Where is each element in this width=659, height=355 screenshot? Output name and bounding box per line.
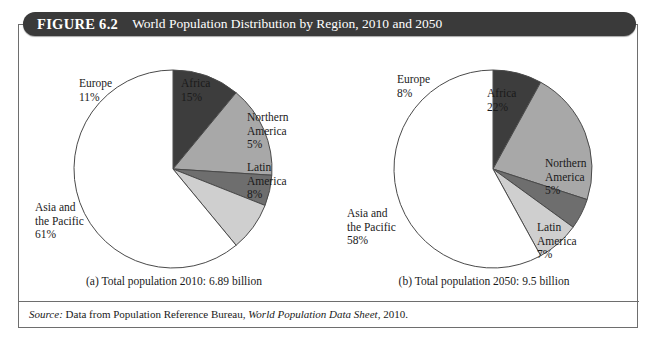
- slice-label-asia-pacific-name2-2010: the Pacific: [35, 215, 84, 229]
- slice-label-asia-pacific-name2-2050: the Pacific: [347, 221, 396, 235]
- figure-frame: Europe 11% Africa 15% Northern America 5…: [18, 24, 638, 328]
- figure-title-bar: FIGURE 6.2 World Population Distribution…: [23, 12, 636, 36]
- slice-label-latin-america-pct-2010: 8%: [247, 188, 287, 202]
- source-note: Source: Data from Population Reference B…: [29, 308, 629, 320]
- slice-label-europe-name-2050: Europe: [397, 73, 430, 85]
- slice-label-asia-pacific-2010: Asia and the Pacific 61%: [35, 201, 84, 242]
- slice-label-africa-pct-2010: 15%: [181, 91, 210, 105]
- panel-caption-2050: (b) Total population 2050: 9.5 billion: [329, 275, 639, 287]
- figure-title: World Population Distribution by Region,…: [132, 16, 442, 32]
- pie-holder-2010: Europe 11% Africa 15% Northern America 5…: [19, 49, 329, 277]
- slice-label-northern-america-name2-2050: America: [545, 171, 587, 185]
- slice-label-northern-america-name-2010: Northern: [247, 111, 289, 123]
- slice-label-latin-america-name-2050: Latin: [537, 221, 561, 233]
- slice-label-europe-2050: Europe 8%: [397, 73, 430, 100]
- slice-label-northern-america-2010: Northern America 5%: [247, 111, 289, 152]
- slice-label-asia-pacific-pct-2010: 61%: [35, 228, 84, 242]
- slice-label-latin-america-2050: Latin America 7%: [537, 221, 577, 262]
- slice-label-latin-america-2010: Latin America 8%: [247, 161, 287, 202]
- slice-label-latin-america-name-2010: Latin: [247, 161, 271, 173]
- slice-label-africa-name-2010: Africa: [181, 77, 210, 89]
- slice-label-northern-america-name-2050: Northern: [545, 157, 587, 169]
- source-publication-title: World Population Data Sheet: [248, 308, 377, 320]
- source-text-after: , 2010.: [378, 308, 408, 320]
- figure-container: Europe 11% Africa 15% Northern America 5…: [18, 12, 642, 342]
- slice-label-northern-america-pct-2050: 5%: [545, 184, 587, 198]
- slice-label-latin-america-pct-2050: 7%: [537, 248, 577, 262]
- slice-label-africa-pct-2050: 22%: [487, 101, 516, 115]
- pie-holder-2050: Europe 8% Africa 22% Northern America 5%…: [329, 49, 639, 277]
- slice-label-asia-pacific-name-2010: Asia and: [35, 201, 76, 213]
- slice-label-asia-pacific-pct-2050: 58%: [347, 234, 396, 248]
- slice-label-europe-2010: Europe 11%: [79, 77, 112, 104]
- charts-row: Europe 11% Africa 15% Northern America 5…: [19, 49, 639, 301]
- slice-label-asia-pacific-2050: Asia and the Pacific 58%: [347, 207, 396, 248]
- slice-label-europe-pct-2010: 11%: [79, 91, 112, 105]
- slice-label-africa-2010: Africa 15%: [181, 77, 210, 104]
- source-prefix: Source:: [29, 308, 63, 320]
- slice-label-europe-name-2010: Europe: [79, 77, 112, 89]
- slice-label-latin-america-name2-2050: America: [537, 235, 577, 249]
- panel-caption-2010: (a) Total population 2010: 6.89 billion: [19, 275, 329, 287]
- source-text-before: Data from Population Reference Bureau,: [66, 308, 246, 320]
- slice-label-europe-pct-2050: 8%: [397, 87, 430, 101]
- slice-label-asia-pacific-name-2050: Asia and: [347, 207, 388, 219]
- figure-number: FIGURE 6.2: [37, 16, 118, 33]
- slice-label-northern-america-2050: Northern America 5%: [545, 157, 587, 198]
- source-divider: [19, 301, 639, 302]
- slice-label-africa-name-2050: Africa: [487, 87, 516, 99]
- slice-label-northern-america-name2-2010: America: [247, 125, 289, 139]
- chart-panel-2050: Europe 8% Africa 22% Northern America 5%…: [329, 49, 639, 301]
- slice-label-africa-2050: Africa 22%: [487, 87, 516, 114]
- slice-label-northern-america-pct-2010: 5%: [247, 138, 289, 152]
- chart-panel-2010: Europe 11% Africa 15% Northern America 5…: [19, 49, 329, 301]
- slice-label-latin-america-name2-2010: America: [247, 175, 287, 189]
